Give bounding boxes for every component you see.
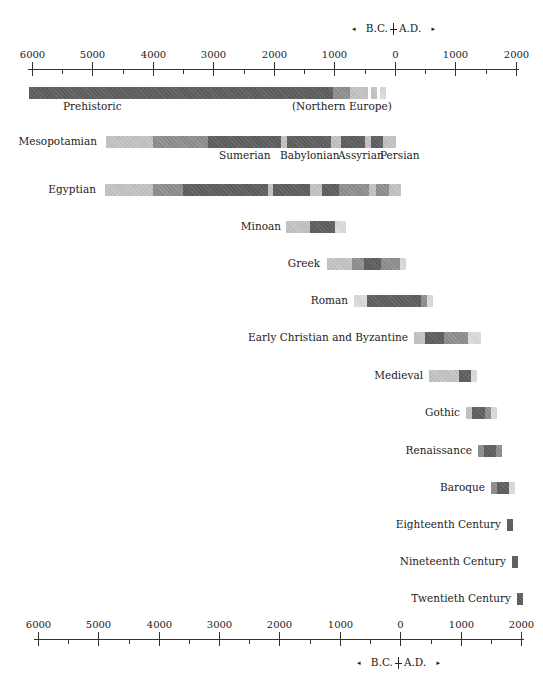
bar-segment-light (369, 184, 376, 196)
bar-segment-light (350, 87, 368, 99)
bar-segment-dark (341, 136, 365, 148)
sub-period-label: Babylonian (280, 149, 339, 161)
sub-period-label: Sumerian (219, 149, 271, 161)
left-arrow-icon: ◂ (352, 25, 356, 33)
bar-segment-dark (484, 445, 496, 457)
major-tick (516, 62, 517, 76)
bar-segment-pale (427, 295, 433, 307)
period-bar (517, 593, 523, 605)
bar-segment-dark (367, 295, 421, 307)
major-tick (340, 632, 341, 646)
bar-segment-mid (352, 258, 364, 270)
bar-segment-light (331, 136, 341, 148)
bar-segment-mid (153, 136, 208, 148)
major-tick (334, 62, 335, 76)
region-note: (Northern Europe) (292, 100, 392, 112)
tick-label: 4000 (147, 619, 172, 630)
period-bar (491, 482, 515, 494)
period-label: Mesopotamian (18, 135, 97, 147)
period-bar (106, 136, 396, 148)
minor-tick (249, 639, 250, 644)
left-arrow-icon: ◂ (357, 659, 361, 667)
period-bar (29, 87, 386, 99)
major-tick (38, 632, 39, 646)
minor-tick (183, 69, 184, 74)
bar-segment-dark (208, 136, 281, 148)
major-tick (92, 62, 93, 76)
tick-label: 5000 (80, 49, 105, 60)
period-label: Eighteenth Century (396, 518, 501, 530)
bar-segment-pale (400, 258, 406, 270)
tick-label: 4000 (141, 49, 166, 60)
bar-segment-light (389, 184, 401, 196)
tick-label: 1000 (443, 49, 468, 60)
period-label: Baroque (440, 481, 485, 493)
bar-segment-light (414, 332, 425, 344)
period-label: Renaissance (406, 444, 472, 456)
major-tick (32, 62, 33, 76)
bar-segment-dark (459, 370, 471, 382)
period-label: Twentieth Century (411, 592, 511, 604)
sub-period-label: Persian (380, 149, 420, 161)
bar-segment-pale (380, 87, 386, 99)
tick-label: 3000 (201, 49, 226, 60)
bar-segment-dark (517, 593, 523, 605)
bar-segment-light (383, 136, 396, 148)
bar-segment-light (371, 87, 377, 99)
major-tick (521, 632, 522, 646)
major-tick (455, 62, 456, 76)
major-tick (461, 632, 462, 646)
period-label: Prehistoric (63, 100, 122, 112)
major-tick (159, 632, 160, 646)
major-tick (219, 632, 220, 646)
sub-period-label: Assyrian (338, 149, 384, 161)
minor-tick (68, 639, 69, 644)
bar-segment-dark (512, 556, 518, 568)
tick-label: 6000 (26, 619, 51, 630)
period-bar (354, 295, 433, 307)
period-label: Roman (311, 294, 348, 306)
bar-segment-mid (376, 184, 389, 196)
tick-label: 1000 (328, 619, 353, 630)
minor-tick (310, 639, 311, 644)
minor-tick (486, 69, 487, 74)
period-label: Nineteenth Century (400, 555, 506, 567)
bc-label: B.C. (366, 22, 388, 34)
tick-label: 0 (392, 49, 398, 60)
tick-label: 2000 (267, 619, 292, 630)
period-bar (512, 556, 518, 568)
minor-tick (365, 69, 366, 74)
minor-tick (129, 639, 130, 644)
major-tick (395, 62, 396, 76)
period-label: Greek (288, 257, 320, 269)
tick-label: 1000 (449, 619, 474, 630)
bar-segment-pale (468, 332, 481, 344)
bar-segment-dark (183, 184, 268, 196)
period-label: Gothic (425, 406, 460, 418)
bar-segment-mid (444, 332, 468, 344)
bar-segment-light (429, 370, 459, 382)
bar-segment-light (286, 221, 310, 233)
bar-segment-light (106, 136, 153, 148)
major-tick (98, 632, 99, 646)
bar-segment-pale (491, 407, 497, 419)
bar-segment-dark (497, 482, 509, 494)
tick-label: 6000 (20, 49, 45, 60)
period-label: Medieval (374, 369, 423, 381)
minor-tick (62, 69, 63, 74)
bc-ad-marker-bottom: ◂ B.C.A.D. ▸ (357, 656, 440, 669)
minor-tick (370, 639, 371, 644)
period-bar (478, 445, 502, 457)
bar-segment-dark (364, 258, 381, 270)
tick-label: 3000 (207, 619, 232, 630)
minor-tick (123, 69, 124, 74)
period-bar (286, 221, 346, 233)
period-bar (105, 184, 401, 196)
bar-segment-pale (354, 295, 367, 307)
major-tick (400, 632, 401, 646)
period-bar (414, 332, 481, 344)
tick-label: 1000 (322, 49, 347, 60)
major-tick (279, 632, 280, 646)
period-bar (466, 407, 497, 419)
bar-segment-pale (471, 370, 477, 382)
